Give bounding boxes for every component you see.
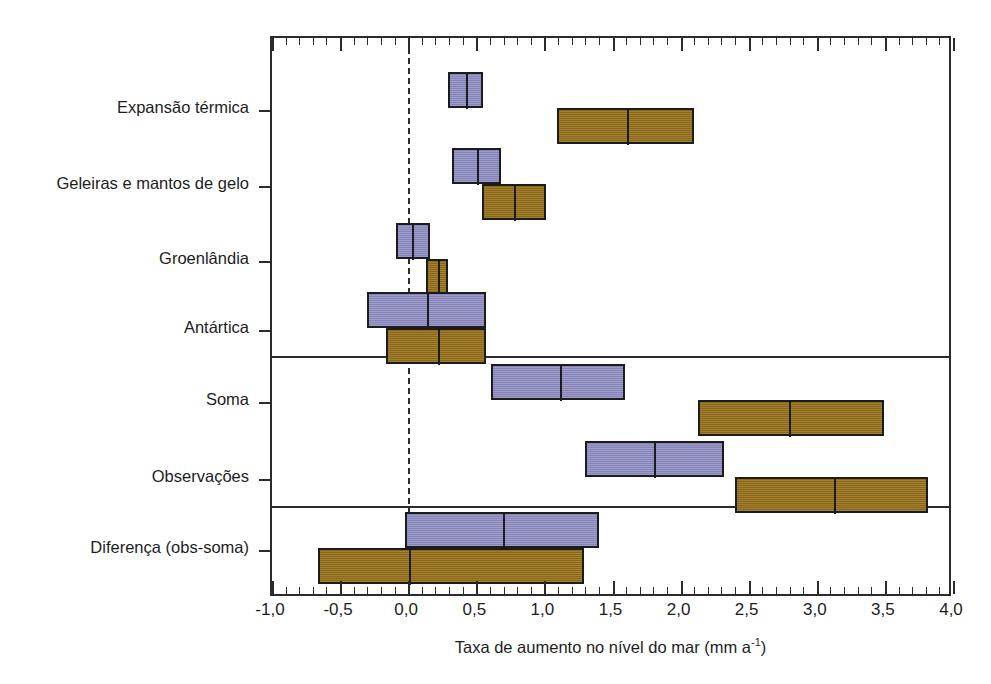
x-tick-minor [585,587,586,594]
plot-area [270,36,951,596]
x-tick-minor [490,587,491,594]
x-tick-minor [776,587,777,594]
bar-diferen-a-obs-soma-serie-marrom [318,548,584,584]
x-tick-top-minor [463,38,464,45]
bar-groenl-ndia-serie-marrom [426,259,448,295]
x-tick-top-minor [517,38,518,45]
x-tick-top-minor [585,38,586,45]
y-axis-tick [259,402,272,404]
group-separator-1 [272,356,949,358]
x-tick-top-minor [504,38,505,45]
x-tick-minor [558,587,559,594]
x-tick-minor [463,587,464,594]
x-tick-minor [790,587,791,594]
x-tick-major [408,581,410,594]
x-tick-minor [694,587,695,594]
x-tick-minor [599,587,600,594]
x-tick-top-minor [449,38,450,45]
x-tick-label-3: 0,5 [462,600,486,620]
x-tick-top-major [749,38,751,51]
x-tick-minor [449,587,450,594]
x-tick-top-minor [926,38,927,45]
x-tick-label-10: 4,0 [939,600,963,620]
x-tick-major [272,581,274,594]
x-tick-top-minor [667,38,668,45]
x-tick-top-minor [435,38,436,45]
x-tick-top-major [476,38,478,51]
bar-groenl-ndia-serie-roxa [396,223,430,259]
x-tick-top-major [340,38,342,51]
bar-center-mark [438,328,440,365]
x-tick-label-1: -0,5 [323,600,352,620]
bar-diferen-a-obs-soma-serie-roxa [405,512,598,548]
bar-center-mark [834,477,836,514]
x-tick-top-major [544,38,546,51]
x-tick-minor [640,587,641,594]
bar-ant-rtica-serie-roxa [367,292,485,328]
x-tick-minor [531,587,532,594]
bar-center-mark [503,512,505,549]
x-tick-top-minor [367,38,368,45]
x-tick-top-minor [313,38,314,45]
x-tick-top-minor [858,38,859,45]
x-tick-top-minor [871,38,872,45]
x-tick-top-major [953,38,955,51]
bar-soma-serie-roxa [491,364,624,400]
x-tick-top-minor [803,38,804,45]
x-tick-minor [326,587,327,594]
x-tick-minor [735,587,736,594]
bar-geleiras-e-mantos-de-gelo-serie-roxa [452,148,501,184]
x-tick-label-9: 3,5 [871,600,895,620]
x-axis-title-tail: ) [761,638,767,656]
x-tick-minor [395,587,396,594]
bar-expans-o-t-rmica-serie-roxa [448,72,483,108]
x-tick-minor [858,587,859,594]
x-tick-label-5: 1,5 [599,600,623,620]
bar-center-mark [789,400,791,437]
y-axis-label-7: Diferença (obs-soma) [90,539,249,556]
x-tick-major [817,581,819,594]
y-axis-tick [259,110,272,112]
x-tick-top-minor [939,38,940,45]
x-tick-minor [435,587,436,594]
bar-center-mark [409,548,411,585]
x-tick-major [953,581,955,594]
x-tick-top-major [817,38,819,51]
x-tick-minor [899,587,900,594]
x-tick-top-minor [735,38,736,45]
bar-soma-serie-marrom [698,400,883,436]
bar-center-mark [427,292,429,329]
x-tick-minor [286,587,287,594]
x-tick-top-major [681,38,683,51]
bar-center-mark [412,223,414,260]
x-tick-top-major [408,38,410,51]
x-tick-minor [653,587,654,594]
bar-center-mark [627,108,629,145]
x-tick-top-minor [830,38,831,45]
x-tick-top-minor [299,38,300,45]
x-tick-major [340,581,342,594]
x-tick-major [681,581,683,594]
x-tick-minor [422,587,423,594]
x-tick-top-minor [490,38,491,45]
x-tick-top-minor [912,38,913,45]
x-tick-top-minor [653,38,654,45]
x-tick-minor [572,587,573,594]
bar-expans-o-t-rmica-serie-marrom [557,108,695,144]
y-axis-tick [259,186,272,188]
bar-center-mark [560,364,562,401]
x-tick-top-minor [381,38,382,45]
y-axis-tick [259,261,272,263]
bar-observa-es-serie-roxa [585,441,724,477]
x-tick-top-minor [776,38,777,45]
y-axis-label-1: Expansão térmica [117,99,249,116]
x-tick-top-minor [708,38,709,45]
x-tick-top-minor [721,38,722,45]
chart-figure: Expansão térmicaGeleiras e mantos de gel… [0,0,991,684]
x-tick-minor [939,587,940,594]
bar-center-mark [514,184,516,221]
x-tick-label-2: 0,0 [394,600,418,620]
x-tick-top-minor [899,38,900,45]
y-axis-label-2: Geleiras e mantos de gelo [56,175,249,192]
x-tick-top-minor [599,38,600,45]
